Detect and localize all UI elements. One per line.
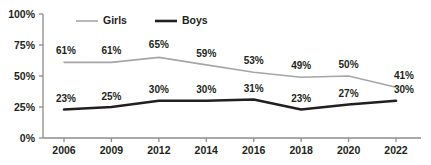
- data-label: 50%: [339, 59, 359, 70]
- x-tick-label: 2012: [147, 144, 171, 156]
- data-label: 23%: [291, 93, 311, 104]
- data-label: 61%: [56, 45, 76, 56]
- data-label: 53%: [244, 55, 264, 66]
- data-label: 30%: [149, 84, 169, 95]
- data-label: 49%: [291, 60, 311, 71]
- x-tick-label: 2020: [337, 144, 361, 156]
- y-tick-label: 100%: [8, 8, 36, 20]
- axes: [43, 14, 421, 138]
- x-tick-label: 2006: [52, 144, 76, 156]
- y-axis-ticks: 0%25%50%75%100%: [8, 8, 43, 144]
- x-tick-label: 2016: [242, 144, 266, 156]
- data-label: 23%: [56, 93, 76, 104]
- data-label: 30%: [196, 84, 216, 95]
- x-axis-ticks: 20062009201220142016201820202022: [52, 138, 408, 156]
- y-tick-label: 25%: [14, 101, 36, 113]
- series-labels-girls: 61%61%65%59%53%49%50%41%: [56, 39, 414, 81]
- x-tick-label: 2014: [195, 144, 219, 156]
- data-label: 59%: [196, 48, 216, 59]
- y-tick-label: 0%: [20, 132, 36, 144]
- data-label: 61%: [101, 45, 121, 56]
- y-tick-label: 50%: [14, 70, 36, 82]
- y-tick-label: 75%: [14, 39, 36, 51]
- x-tick-label: 2018: [289, 144, 313, 156]
- data-label: 31%: [244, 83, 264, 94]
- data-label: 25%: [101, 91, 121, 102]
- line-chart: 0%25%50%75%100%2006200920122014201620182…: [0, 0, 431, 165]
- legend-label-girls: Girls: [103, 14, 127, 26]
- x-tick-label: 2009: [100, 144, 124, 156]
- data-label: 27%: [339, 88, 359, 99]
- x-tick-label: 2022: [384, 144, 408, 156]
- chart-canvas: 0%25%50%75%100%2006200920122014201620182…: [0, 0, 431, 165]
- legend: GirlsBoys: [76, 14, 208, 26]
- legend-label-boys: Boys: [182, 14, 208, 26]
- data-label: 65%: [149, 39, 169, 50]
- data-label: 41%: [394, 70, 414, 81]
- data-label: 30%: [394, 84, 414, 95]
